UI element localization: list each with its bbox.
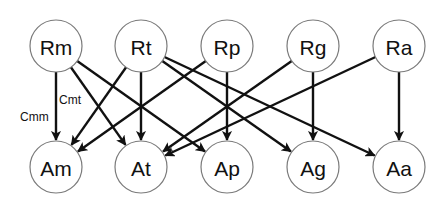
node-rm: Rm [30, 20, 82, 72]
node-ra: Ra [373, 20, 425, 72]
node-label: Ra [386, 36, 413, 59]
node-ag: Ag [287, 141, 339, 193]
node-rt: Rt [115, 20, 167, 72]
node-label: Rm [40, 36, 73, 59]
node-label: At [131, 157, 151, 180]
node-label: Aa [386, 157, 412, 180]
node-label: Ap [214, 157, 240, 180]
node-am: Am [30, 141, 82, 193]
edge-labels-layer: CmmCmt [20, 93, 82, 124]
node-at: At [115, 141, 167, 193]
node-label: Ag [300, 157, 326, 180]
node-label: Rg [300, 36, 327, 59]
node-aa: Aa [373, 141, 425, 193]
edge-label-cmt: Cmt [59, 93, 82, 107]
edge-label-cmm: Cmm [20, 110, 49, 124]
node-ap: Ap [201, 141, 253, 193]
node-rp: Rp [201, 20, 253, 72]
node-rg: Rg [287, 20, 339, 72]
node-label: Am [40, 157, 72, 180]
node-label: Rp [214, 36, 241, 59]
rm-am-bipartite-diagram: RmRtRpRgRaAmAtApAgAa CmmCmt [0, 0, 447, 207]
node-label: Rt [131, 36, 152, 59]
